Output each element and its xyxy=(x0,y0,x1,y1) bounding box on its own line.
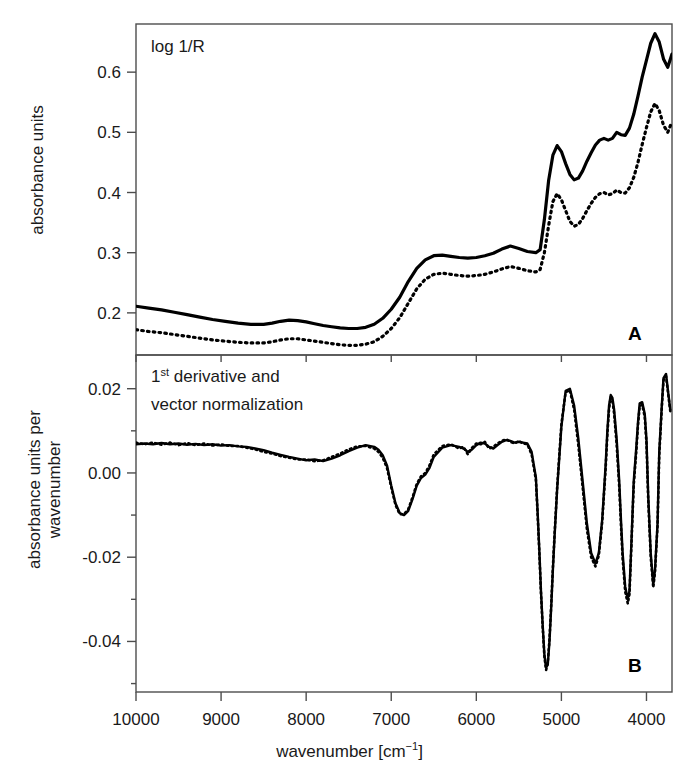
panel-b-y-tick-label: 0.02 xyxy=(88,380,121,399)
panel-b-y-tick-label: 0.00 xyxy=(88,464,121,483)
panel-a-annotation: log 1/R xyxy=(151,37,205,56)
panel-a-y-tick-label: 0.4 xyxy=(97,184,121,203)
x-axis-label-text: wavenumber [cm xyxy=(276,742,405,761)
panel-b-annotation-line1: 1st derivative and xyxy=(151,366,280,386)
panel-a-curve-solid xyxy=(136,34,672,329)
panel-a-curves xyxy=(136,34,672,346)
panel-a-y-tick-label: 0.3 xyxy=(97,244,121,263)
panel-a-y-ticks xyxy=(127,72,136,313)
x-axis-unit-exponent: −1 xyxy=(406,740,419,752)
x-axis-label-bracket: ] xyxy=(418,742,423,761)
panel-a-label: A xyxy=(628,323,642,344)
panel-a-curve-dotted xyxy=(136,103,672,345)
x-axis-tick-labels: 10000900080007000600050004000 xyxy=(112,710,665,729)
panel-b-curve-dotted xyxy=(136,376,670,670)
panel-a-y-tick-label: 0.2 xyxy=(97,304,121,323)
x-tick-label: 10000 xyxy=(112,710,159,729)
panel-b-y-axis-label: absorbance units per wavenumber xyxy=(25,375,64,605)
panel-b-y-tick-label: -0.02 xyxy=(82,548,121,567)
x-tick-label: 8000 xyxy=(287,710,325,729)
panel-a-frame xyxy=(136,24,672,355)
x-tick-label: 5000 xyxy=(542,710,580,729)
panel-b-annotation-superscript: st xyxy=(160,366,169,378)
panel-a-y-tick-label: 0.6 xyxy=(97,63,121,82)
panel-b-curves xyxy=(136,374,670,670)
panel-b-y-tick-label: -0.04 xyxy=(82,632,121,651)
x-tick-label: 7000 xyxy=(372,710,410,729)
panel-b-label: B xyxy=(628,655,642,676)
x-tick-label: 9000 xyxy=(202,710,240,729)
panel-b-annotation-number: 1 xyxy=(151,367,160,386)
x-axis-label: wavenumber [cm−1] xyxy=(0,740,699,762)
figure-container: absorbance units absorbance units per wa… xyxy=(0,0,699,782)
x-tick-label: 6000 xyxy=(457,710,495,729)
panel-a-y-tick-labels: 0.20.30.40.50.6 xyxy=(97,63,121,323)
panel-b-curve-solid xyxy=(136,374,670,668)
panel-b-y-axis-label-line2: wavenumber xyxy=(45,375,65,605)
panel-b-y-ticks xyxy=(127,389,136,684)
x-tick-label: 4000 xyxy=(628,710,666,729)
panel-a-y-axis-label: absorbance units xyxy=(28,70,48,270)
panel-b-annotation-line2: vector normalization xyxy=(151,395,303,414)
panel-a-y-tick-label: 0.5 xyxy=(97,123,121,142)
chart-svg: log 1/R 1st derivative and vector normal… xyxy=(0,0,699,782)
panel-b-y-axis-label-line1: absorbance units per xyxy=(25,375,45,605)
panel-b-y-tick-labels: -0.04-0.020.000.02 xyxy=(82,380,121,652)
panel-b-annotation-rest: derivative and xyxy=(169,367,280,386)
